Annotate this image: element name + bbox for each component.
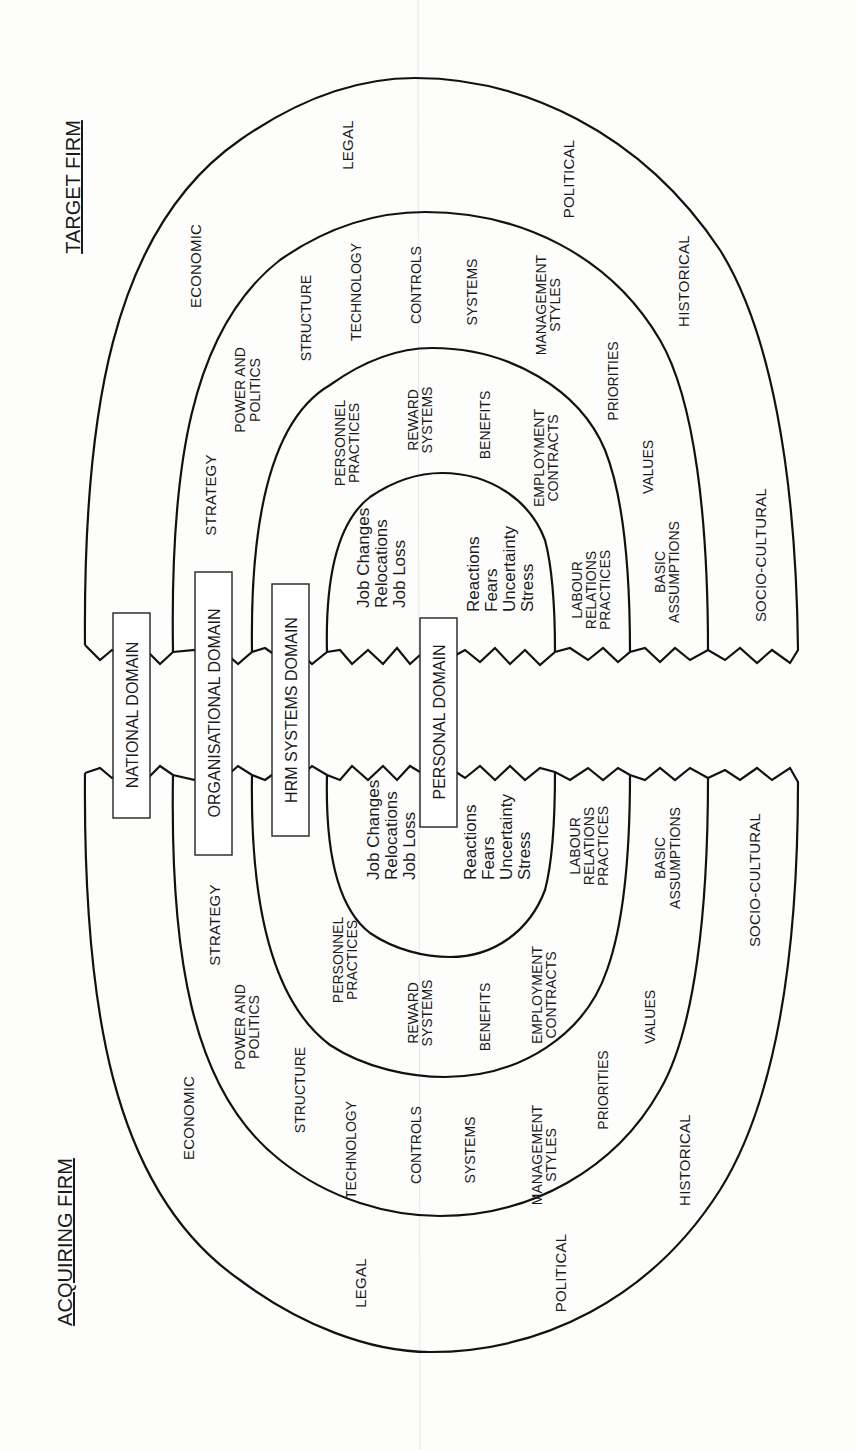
svg-text:SYSTEMS: SYSTEMS	[464, 259, 480, 326]
svg-text:ASSUMPTIONS: ASSUMPTIONS	[667, 807, 683, 909]
svg-text:ECONOMIC: ECONOMIC	[187, 224, 204, 308]
svg-text:VALUES: VALUES	[640, 440, 656, 494]
svg-text:HISTORICAL: HISTORICAL	[676, 1114, 693, 1206]
svg-text:NATIONAL DOMAIN: NATIONAL DOMAIN	[124, 642, 141, 789]
svg-text:Relocations: Relocations	[382, 791, 401, 880]
target-personal-labels: Job Changes Relocations Job Loss Reactio…	[354, 508, 537, 612]
svg-text:PRACTICES: PRACTICES	[344, 920, 360, 1000]
svg-text:Uncertainty: Uncertainty	[497, 794, 516, 880]
svg-text:BENEFITS: BENEFITS	[477, 983, 493, 1051]
target-national-ring	[85, 78, 798, 665]
svg-text:PRACTICES: PRACTICES	[346, 403, 362, 483]
svg-text:LEGAL: LEGAL	[352, 1258, 369, 1307]
svg-text:POLITICS: POLITICS	[247, 358, 263, 422]
svg-text:SYSTEMS: SYSTEMS	[462, 1117, 478, 1184]
target-firm-title: TARGET FIRM	[62, 120, 84, 254]
svg-text:Stress: Stress	[515, 832, 534, 880]
svg-text:HRM SYSTEMS DOMAIN: HRM SYSTEMS DOMAIN	[283, 617, 300, 803]
svg-text:Uncertainty: Uncertainty	[500, 526, 519, 612]
domains-diagram: NATIONAL DOMAIN ORGANISATIONAL DOMAIN HR…	[0, 0, 856, 1450]
svg-text:Stress: Stress	[518, 564, 537, 612]
svg-text:Reactions: Reactions	[461, 804, 480, 880]
svg-text:STRATEGY: STRATEGY	[202, 454, 219, 535]
acquiring-firm-title: ACQUIRING FIRM	[54, 1158, 76, 1326]
svg-text:CONTRACTS: CONTRACTS	[543, 951, 559, 1038]
svg-text:HISTORICAL: HISTORICAL	[675, 235, 692, 327]
svg-text:SOCIO-CULTURAL: SOCIO-CULTURAL	[746, 813, 763, 947]
svg-text:Fears: Fears	[482, 569, 501, 612]
svg-text:Relocations: Relocations	[372, 519, 391, 608]
svg-text:BENEFITS: BENEFITS	[477, 391, 493, 459]
svg-text:PERSONAL DOMAIN: PERSONAL DOMAIN	[431, 645, 448, 800]
svg-text:STYLES: STYLES	[543, 1128, 559, 1182]
svg-text:Reactions: Reactions	[464, 536, 483, 612]
svg-text:BASIC: BASIC	[652, 837, 668, 879]
svg-text:PRACTICES: PRACTICES	[595, 806, 611, 886]
svg-text:POLITICAL: POLITICAL	[560, 140, 577, 219]
svg-text:Job Changes: Job Changes	[364, 780, 383, 880]
svg-text:STRUCTURE: STRUCTURE	[292, 1047, 308, 1133]
svg-text:CONTROLS: CONTROLS	[408, 1106, 424, 1184]
svg-text:Job Changes: Job Changes	[354, 508, 373, 608]
svg-text:CONTROLS: CONTROLS	[408, 246, 424, 324]
svg-text:CONTRACTS: CONTRACTS	[545, 414, 561, 501]
svg-text:POLITICS: POLITICS	[246, 995, 262, 1059]
personal-domain-label: PERSONAL DOMAIN	[420, 618, 457, 827]
svg-text:LEGAL: LEGAL	[339, 120, 356, 169]
svg-text:PRIORITIES: PRIORITIES	[595, 1050, 611, 1129]
svg-text:STRATEGY: STRATEGY	[206, 884, 223, 965]
scanned-page: NATIONAL DOMAIN ORGANISATIONAL DOMAIN HR…	[0, 0, 856, 1450]
svg-text:ORGANISATIONAL DOMAIN: ORGANISATIONAL DOMAIN	[206, 609, 223, 818]
svg-text:POWER AND: POWER AND	[232, 347, 248, 433]
svg-text:Job Loss: Job Loss	[390, 540, 409, 608]
acquiring-national-ring	[85, 766, 798, 1352]
hrm-systems-domain-label: HRM SYSTEMS DOMAIN	[272, 584, 309, 836]
svg-text:SYSTEMS: SYSTEMS	[419, 980, 435, 1047]
organisational-domain-label: ORGANISATIONAL DOMAIN	[195, 572, 232, 855]
svg-text:SYSTEMS: SYSTEMS	[419, 387, 435, 454]
svg-text:Fears: Fears	[479, 837, 498, 880]
svg-text:SOCIO-CULTURAL: SOCIO-CULTURAL	[752, 488, 769, 622]
svg-text:TECHNOLOGY: TECHNOLOGY	[343, 1100, 359, 1199]
national-domain-label: NATIONAL DOMAIN	[113, 613, 150, 818]
svg-text:ASSUMPTIONS: ASSUMPTIONS	[666, 521, 682, 623]
svg-text:PRIORITIES: PRIORITIES	[605, 341, 621, 420]
svg-text:PRACTICES: PRACTICES	[597, 550, 613, 630]
svg-text:TECHNOLOGY: TECHNOLOGY	[348, 242, 364, 341]
svg-text:VALUES: VALUES	[642, 990, 658, 1044]
svg-text:Job Loss: Job Loss	[400, 812, 419, 880]
svg-text:ECONOMIC: ECONOMIC	[180, 1076, 197, 1160]
svg-text:STRUCTURE: STRUCTURE	[298, 275, 314, 361]
svg-text:POLITICAL: POLITICAL	[552, 1234, 569, 1313]
acquiring-organisational-labels: STRATEGY POWER AND POLITICS STRUCTURE TE…	[206, 807, 683, 1205]
svg-text:STYLES: STYLES	[547, 278, 563, 332]
